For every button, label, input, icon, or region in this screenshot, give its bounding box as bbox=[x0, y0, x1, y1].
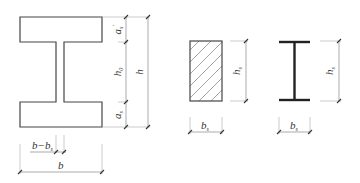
label-steel-bs: bs bbox=[290, 119, 299, 132]
steel-i-section: hs bs bbox=[277, 39, 341, 134]
label-as: as bbox=[111, 110, 124, 119]
label-as-prime: as′ bbox=[111, 25, 124, 35]
label-b: b bbox=[58, 159, 64, 171]
label-rect-hs: hs bbox=[230, 66, 243, 75]
label-h: h bbox=[133, 69, 145, 75]
label-h0: h0 bbox=[111, 68, 124, 77]
rect-section: hs bs bbox=[180, 10, 248, 144]
label-steel-hs: hs bbox=[323, 66, 336, 75]
label-b-minus-bs: b−bs bbox=[32, 139, 53, 152]
i-section-outline bbox=[20, 17, 102, 127]
section-diagram: as′ h0 as h b−bs b bbox=[0, 0, 360, 183]
label-rect-bs: bs bbox=[201, 119, 210, 132]
i-section: as′ h0 as h b−bs b bbox=[18, 15, 150, 174]
